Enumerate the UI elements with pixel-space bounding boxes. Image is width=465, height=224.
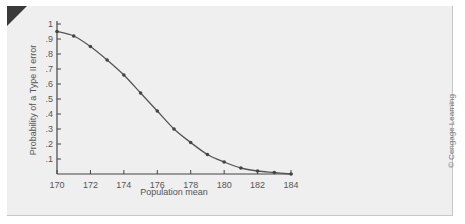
y-tick-label: .2 [45,139,53,149]
line-chart: 170172174176178180182184.1.2.3.4.5.6.7.8… [0,0,465,224]
data-point [222,160,226,164]
data-point [206,153,210,157]
y-tick-label: 1 [48,19,53,29]
data-point [189,141,193,145]
y-tick-label: .5 [45,94,53,104]
y-tick-label: .6 [45,79,53,89]
data-point [55,30,59,34]
data-point [139,91,143,95]
data-point [172,127,176,131]
x-tick-label: 170 [49,180,64,190]
data-point [155,109,159,113]
data-line [57,32,291,175]
y-tick-label: .9 [45,34,53,44]
x-tick-label: 180 [217,180,232,190]
x-tick-label: 172 [83,180,98,190]
x-tick-label: 174 [116,180,131,190]
y-tick-label: .4 [45,109,53,119]
data-point [239,166,243,170]
y-tick-label: .7 [45,64,53,74]
data-point [289,172,293,176]
x-tick-label: 182 [250,180,265,190]
data-point [122,73,126,77]
ticks: 170172174176178180182184.1.2.3.4.5.6.7.8… [45,19,298,190]
data-point [256,169,260,173]
x-axis-label: Population mean [140,187,208,197]
data-markers [55,30,293,176]
y-tick-label: .3 [45,124,53,134]
axes [57,21,293,174]
x-tick-label: 184 [283,180,298,190]
y-axis-label: Probability of a Type II error [28,45,38,155]
data-point [105,58,109,62]
data-point [89,45,93,49]
data-point [272,171,276,175]
copyright-credit: © Cengage Learning [447,94,456,168]
y-tick-label: .8 [45,49,53,59]
data-point [72,34,76,38]
y-tick-label: .1 [45,154,53,164]
